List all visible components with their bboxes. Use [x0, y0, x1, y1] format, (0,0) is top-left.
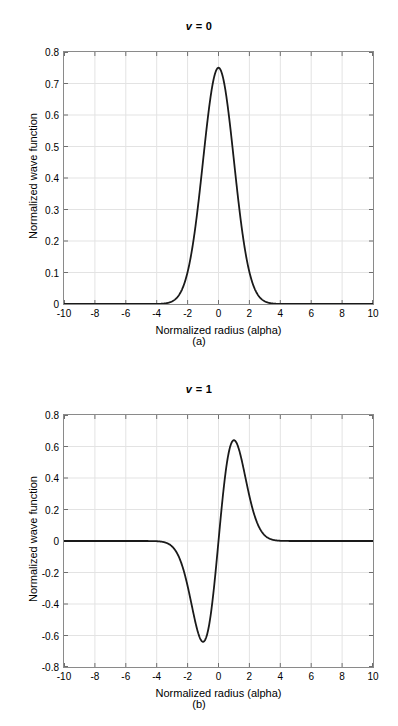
y-tick-label: -0.8: [42, 662, 59, 673]
x-tick-label: -6: [121, 671, 130, 682]
y-tick-label: 0.2: [45, 504, 59, 515]
x-tick-label: -4: [152, 671, 161, 682]
x-tick-label: 0: [216, 308, 222, 319]
x-tick-label: 0: [216, 671, 222, 682]
x-tick-label: 4: [278, 308, 284, 319]
x-tick-label: 4: [278, 671, 284, 682]
x-tick-label: 8: [339, 671, 345, 682]
panel-b: v = 1 -10-8-6-4-20246810-0.8-0.6-0.4-0.2…: [0, 363, 398, 726]
y-tick-label: -0.2: [42, 567, 59, 578]
y-axis-label-b: Normalized wave function: [27, 419, 39, 659]
x-tick-label: 8: [339, 308, 345, 319]
y-tick-label: 0: [53, 299, 59, 310]
x-tick-label: -2: [183, 308, 192, 319]
x-tick-label: 10: [367, 671, 378, 682]
plot-area-a: -10-8-6-4-2024681000.10.20.30.40.50.60.7…: [63, 51, 374, 305]
curve-svg-b: [64, 415, 373, 667]
y-tick-label: 0.7: [45, 78, 59, 89]
y-tick-label: 0.1: [45, 267, 59, 278]
y-tick-label: 0.5: [45, 141, 59, 152]
y-tick-label: 0.8: [45, 410, 59, 421]
y-tick-label: -0.4: [42, 599, 59, 610]
plot-title-b: v = 1: [0, 383, 398, 395]
quantum-number-value-a: = 0: [192, 20, 212, 32]
x-tick-label: 6: [308, 671, 314, 682]
x-tick-label: -10: [57, 671, 71, 682]
y-tick-label: 0.3: [45, 204, 59, 215]
y-tick-label: 0: [53, 536, 59, 547]
x-tick-label: -8: [90, 308, 99, 319]
curve-svg-a: [64, 52, 373, 304]
y-tick-label: 0.6: [45, 110, 59, 121]
y-tick-label: -0.6: [42, 630, 59, 641]
subcaption-a: (a): [0, 335, 398, 347]
y-tick-label: 0.8: [45, 47, 59, 58]
panel-a: v = 0 -10-8-6-4-2024681000.10.20.30.40.5…: [0, 0, 398, 363]
y-axis-label-a: Normalized wave function: [27, 56, 39, 296]
x-tick-label: -2: [183, 671, 192, 682]
x-tick-label: -10: [57, 308, 71, 319]
figure-container: v = 0 -10-8-6-4-2024681000.10.20.30.40.5…: [0, 0, 398, 726]
x-tick-label: -6: [121, 308, 130, 319]
y-tick-label: 0.4: [45, 173, 59, 184]
subcaption-b: (b): [0, 698, 398, 710]
quantum-number-value-b: = 1: [192, 383, 212, 395]
x-tick-label: -8: [90, 671, 99, 682]
x-tick-label: 2: [247, 671, 253, 682]
x-tick-label: -4: [152, 308, 161, 319]
plot-area-b: -10-8-6-4-20246810-0.8-0.6-0.4-0.200.20.…: [63, 414, 374, 668]
y-tick-label: 0.2: [45, 236, 59, 247]
y-tick-label: 0.4: [45, 473, 59, 484]
x-tick-label: 6: [308, 308, 314, 319]
plot-title-a: v = 0: [0, 20, 398, 32]
x-tick-label: 2: [247, 308, 253, 319]
y-tick-label: 0.6: [45, 441, 59, 452]
x-tick-label: 10: [367, 308, 378, 319]
